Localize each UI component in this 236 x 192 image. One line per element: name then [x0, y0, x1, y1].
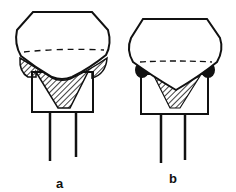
panel-b: b — [129, 19, 222, 186]
diagram-canvas: a b — [0, 0, 236, 192]
panel-label-a: a — [56, 176, 64, 191]
panel-label-b: b — [169, 171, 177, 186]
panel-a: a — [16, 12, 110, 191]
